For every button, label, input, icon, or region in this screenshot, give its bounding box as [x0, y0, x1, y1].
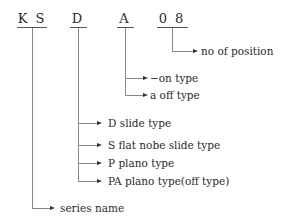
label-s-flat-nobe: S flat nobe slide type [108, 139, 220, 151]
connector-a [125, 28, 126, 96]
connector-d [78, 28, 79, 182]
connector-08-h [172, 51, 194, 52]
arrow-icon [97, 121, 102, 125]
arrow-icon [193, 49, 198, 53]
connector-08 [172, 28, 173, 51]
code-08: 0 8 [157, 11, 187, 26]
label-no-of-position: no of position [201, 45, 273, 57]
label-d-slide-type: D slide type [108, 117, 171, 129]
code-ks: K S [17, 11, 47, 26]
connector-d-slide [78, 123, 97, 124]
arrow-icon [50, 206, 55, 210]
connector-a-on [125, 78, 143, 79]
code-d: D [70, 11, 86, 26]
connector-ks [32, 28, 33, 209]
arrow-icon [97, 143, 102, 147]
connector-p-plano [78, 163, 97, 164]
label-series-name: series name [60, 202, 124, 214]
label-pa-plano: PA plano type(off type) [108, 175, 229, 187]
code-a: A [117, 11, 133, 26]
arrow-icon [143, 76, 148, 80]
label-p-plano: P plano type [108, 157, 174, 169]
connector-a-off [125, 95, 143, 96]
connector-s-flat [78, 145, 97, 146]
connector-series [32, 208, 50, 209]
label-on-type: −on type [150, 72, 198, 84]
arrow-icon [143, 93, 148, 97]
arrow-icon [97, 161, 102, 165]
arrow-icon [97, 179, 102, 183]
connector-pa-plano [78, 181, 97, 182]
label-a-off-type: a off type [150, 89, 200, 101]
